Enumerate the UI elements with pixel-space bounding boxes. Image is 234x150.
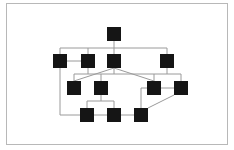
hierarchy-diagram [0,0,234,150]
node-box-n3 [81,54,95,68]
node-box-n2 [53,54,67,68]
node-box-n10 [80,108,94,122]
edge-connector [148,95,174,108]
node-box-n6 [67,81,81,95]
node-box-n4 [107,54,121,68]
node-box-n12 [134,108,148,122]
node-box-n11 [107,108,121,122]
edge-connector [74,74,181,81]
node-box-n8 [147,81,161,95]
node-box-n1 [107,27,121,41]
edges [60,41,181,115]
node-box-n9 [174,81,188,95]
edge-connector [141,88,147,108]
node-box-n5 [160,54,174,68]
node-box-n7 [94,81,108,95]
edge-connector [87,101,114,108]
